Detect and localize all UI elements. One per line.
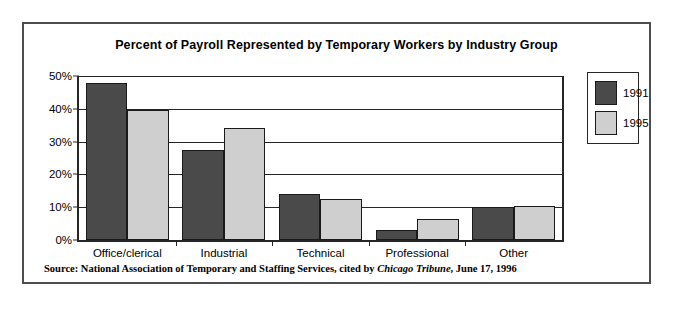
bar-group: Technical: [272, 76, 369, 240]
bar-1991-office-clerical: [86, 83, 128, 240]
plot-area: 0%10%20%30%40%50% Office/clericalIndustr…: [77, 76, 564, 242]
x-axis-label: Other: [465, 247, 562, 259]
bar-1995-other: [514, 206, 556, 240]
legend-item-1995: 1995: [595, 110, 632, 136]
legend-label-1995: 1995: [623, 117, 649, 129]
source-suffix: , June 17, 1996: [451, 263, 517, 274]
bar-1995-technical: [320, 199, 362, 240]
source-note: Source: National Association of Temporar…: [44, 263, 517, 274]
bars-layer: Office/clericalIndustrialTechnicalProfes…: [79, 76, 562, 240]
bar-1995-industrial: [224, 128, 266, 240]
legend-swatch-1995: [595, 111, 617, 135]
legend-swatch-1991: [595, 81, 617, 105]
y-axis-label: 40%: [49, 103, 72, 115]
legend-label-1991: 1991: [623, 87, 649, 99]
legend-item-1991: 1991: [595, 80, 632, 106]
source-publication: Chicago Tribune: [377, 263, 450, 274]
bar-1991-technical: [279, 194, 321, 240]
bar-group: Other: [465, 76, 562, 240]
bar-group: Professional: [369, 76, 466, 240]
y-axis-label: 20%: [49, 168, 72, 180]
bar-1991-industrial: [182, 150, 224, 240]
source-prefix: Source: National Association of Temporar…: [44, 263, 377, 274]
chart-legend: 19911995: [587, 72, 639, 144]
x-axis-tick: [465, 240, 466, 246]
y-axis-label: 50%: [49, 70, 72, 82]
y-axis-label: 10%: [49, 201, 72, 213]
chart-title: Percent of Payroll Represented by Tempor…: [24, 38, 649, 52]
x-axis-tick: [369, 240, 370, 246]
bar-1995-office-clerical: [127, 110, 169, 240]
bar-1991-professional: [376, 230, 418, 240]
y-axis-label: 0%: [55, 234, 72, 246]
x-axis-label: Office/clerical: [79, 247, 176, 259]
x-axis-label: Technical: [272, 247, 369, 259]
bar-1995-professional: [417, 219, 459, 240]
x-axis-label: Industrial: [176, 247, 273, 259]
bar-1991-other: [472, 207, 514, 240]
x-axis-label: Professional: [369, 247, 466, 259]
bar-group: Office/clerical: [79, 76, 176, 240]
chart-frame: Percent of Payroll Represented by Tempor…: [22, 22, 651, 284]
bar-group: Industrial: [176, 76, 273, 240]
x-axis-tick: [272, 240, 273, 246]
y-axis-label: 30%: [49, 136, 72, 148]
x-axis-tick: [176, 240, 177, 246]
